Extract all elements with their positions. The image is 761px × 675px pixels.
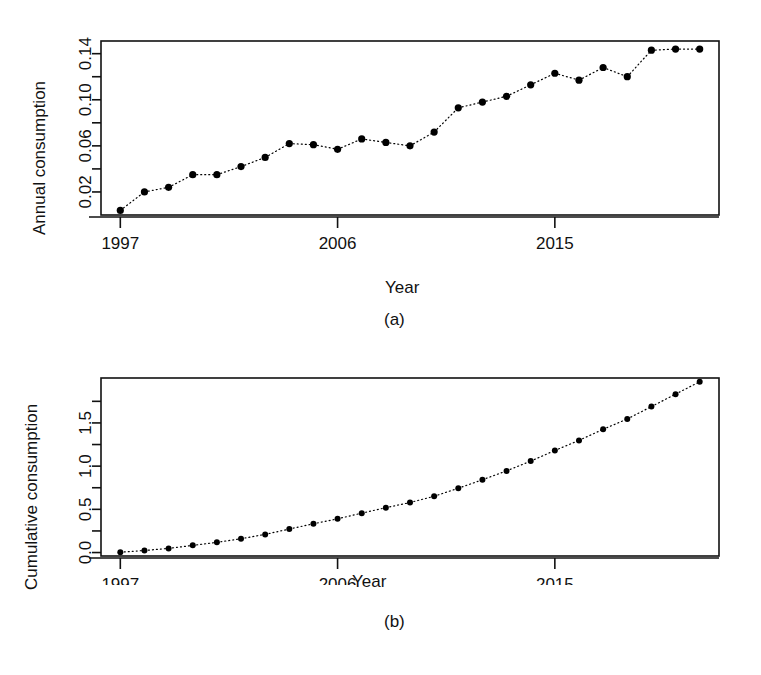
series-connector <box>434 488 458 496</box>
series-connector <box>241 534 265 538</box>
series-connector <box>579 429 603 440</box>
y-tick-label: 1.5 <box>76 411 95 435</box>
series-connector <box>386 142 410 145</box>
x-tick-label: 1997 <box>101 234 139 250</box>
y-tick-label: 0.02 <box>76 175 95 208</box>
data-point <box>624 73 631 80</box>
data-point <box>334 146 341 153</box>
x-tick-label: 2006 <box>319 234 357 250</box>
x-tick-label: 2006 <box>319 575 357 585</box>
data-point <box>648 47 655 54</box>
caption-a: (a) <box>384 310 405 330</box>
data-point <box>673 391 679 397</box>
data-point <box>503 93 510 100</box>
data-point <box>214 539 220 545</box>
data-point <box>431 128 438 135</box>
series-connector <box>507 85 531 97</box>
series-connector <box>627 50 651 77</box>
series-connector <box>651 49 675 50</box>
series-connector <box>338 139 362 149</box>
series-connector <box>193 542 217 545</box>
data-point <box>648 404 654 410</box>
data-point <box>213 171 220 178</box>
data-point <box>696 45 703 52</box>
data-point <box>165 184 172 191</box>
data-point <box>383 505 389 511</box>
x-tick-label: 1997 <box>101 575 139 585</box>
plot-area-a: 0.020.060.100.14199720062015 <box>0 0 761 250</box>
data-point <box>455 104 462 111</box>
series-connector <box>217 539 241 543</box>
series-connector <box>603 68 627 77</box>
data-point <box>552 447 558 453</box>
data-point <box>189 171 196 178</box>
data-point <box>382 139 389 146</box>
data-point <box>262 154 269 161</box>
data-point <box>117 549 123 555</box>
series-connector <box>531 73 555 85</box>
plot-box <box>101 378 719 556</box>
series-connector <box>579 68 603 81</box>
data-point <box>237 163 244 170</box>
panel-b: Cumulative consumption 0.00.51.01.519972… <box>0 340 761 675</box>
plot-box <box>101 41 719 215</box>
series-connector <box>603 419 627 429</box>
x-axis-title-b: Year <box>352 572 386 592</box>
data-point <box>310 141 317 148</box>
data-point <box>600 64 607 71</box>
series-connector <box>144 548 168 550</box>
figure-root: Annual consumption 0.020.060.100.1419972… <box>0 0 761 675</box>
series-connector <box>241 157 265 166</box>
data-point <box>406 142 413 149</box>
y-axis-title-b: Cumulative consumption <box>22 404 42 590</box>
data-point <box>141 547 147 553</box>
data-point <box>576 437 582 443</box>
series-connector <box>265 144 289 158</box>
series-connector <box>410 496 434 502</box>
data-point <box>600 426 606 432</box>
y-tick-label: 0.0 <box>76 541 95 565</box>
data-point <box>358 135 365 142</box>
data-point <box>238 536 244 542</box>
series-connector <box>434 108 458 132</box>
data-point <box>431 493 437 499</box>
data-point <box>310 521 316 527</box>
data-point <box>575 77 582 84</box>
data-point <box>504 468 510 474</box>
series-connector <box>169 175 193 188</box>
data-point <box>166 545 172 551</box>
series-connector <box>289 524 313 529</box>
series-connector <box>362 508 386 513</box>
series-connector <box>265 529 289 534</box>
y-tick-label: 0.14 <box>76 37 95 70</box>
panel-a: Annual consumption 0.020.060.100.1419972… <box>0 0 761 340</box>
data-point <box>479 98 486 105</box>
data-point <box>697 379 703 385</box>
series-connector <box>217 167 241 175</box>
series-connector <box>338 513 362 519</box>
data-point <box>407 500 413 506</box>
series-connector <box>362 139 386 142</box>
data-point <box>335 516 341 522</box>
series-connector <box>627 407 651 419</box>
series-connector <box>555 73 579 80</box>
series-connector <box>289 144 313 145</box>
y-axis-title-a: Annual consumption <box>30 81 50 235</box>
data-point <box>262 531 268 537</box>
series-connector <box>651 394 675 406</box>
data-point <box>624 416 630 422</box>
data-point <box>190 542 196 548</box>
data-point <box>359 510 365 516</box>
y-tick-label: 0.06 <box>76 129 95 162</box>
series-connector <box>169 545 193 548</box>
x-tick-label: 2015 <box>536 575 574 585</box>
data-point <box>672 45 679 52</box>
series-connector <box>386 503 410 508</box>
series-connector <box>120 192 144 210</box>
series-connector <box>555 440 579 450</box>
series-connector <box>676 382 700 394</box>
series-connector <box>482 471 506 480</box>
plot-area-b: 0.00.51.01.5199720062015 <box>0 340 761 585</box>
series-connector <box>458 102 482 108</box>
x-tick-label: 2015 <box>536 234 574 250</box>
